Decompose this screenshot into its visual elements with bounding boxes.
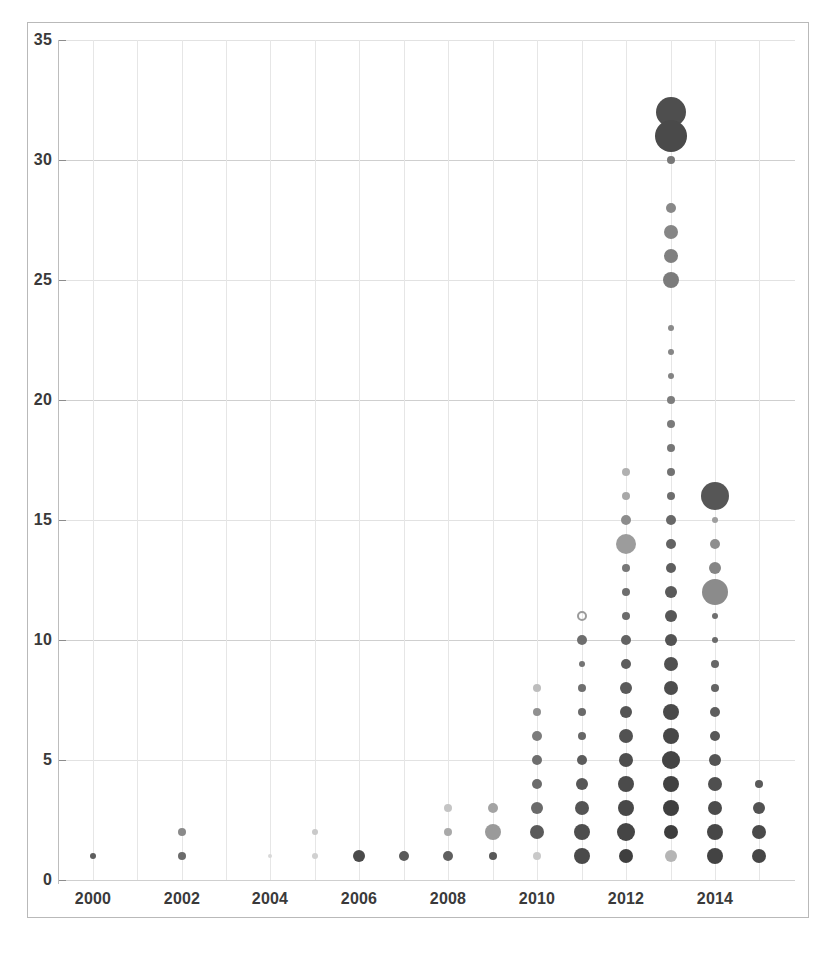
data-point-bubble (668, 325, 674, 331)
data-point-bubble (444, 804, 452, 812)
x-gridline (226, 40, 227, 880)
x-axis-tick-label: 2000 (58, 890, 128, 908)
data-point-bubble (622, 588, 630, 596)
data-point-bubble (667, 156, 675, 164)
data-point-bubble (620, 706, 632, 718)
data-point-bubble (578, 708, 586, 716)
y-tickmark (58, 520, 66, 521)
data-point-bubble (353, 850, 365, 862)
data-point-bubble (665, 634, 677, 646)
data-point-bubble (707, 824, 723, 840)
data-point-bubble (533, 684, 541, 692)
data-point-bubble (579, 661, 585, 667)
plot-area: 0510152025303520002002200420062008201020… (0, 0, 830, 958)
data-point-bubble (488, 803, 498, 813)
data-point-bubble (663, 272, 679, 288)
y-axis-tick-label: 5 (6, 751, 52, 769)
data-point-bubble (530, 825, 544, 839)
data-point-bubble (665, 610, 677, 622)
x-gridline (315, 40, 316, 880)
data-point-bubble (574, 848, 590, 864)
data-point-bubble (663, 728, 679, 744)
data-point-bubble (619, 729, 633, 743)
data-point-bubble (619, 753, 633, 767)
data-point-bubble (574, 824, 590, 840)
data-point-bubble (712, 637, 718, 643)
x-axis-tick-label: 2010 (502, 890, 572, 908)
data-point-bubble (711, 660, 719, 668)
y-axis-tick-label: 0 (6, 871, 52, 889)
data-point-bubble (712, 517, 718, 523)
y-axis-tick-label: 10 (6, 631, 52, 649)
x-axis-tick-label: 2006 (324, 890, 394, 908)
y-axis-tick-label: 35 (6, 31, 52, 49)
data-point-bubble (617, 823, 635, 841)
x-gridline (270, 40, 271, 880)
x-axis-tick-label: 2002 (147, 890, 217, 908)
y-axis-tick-label: 25 (6, 271, 52, 289)
data-point-bubble (622, 468, 630, 476)
data-point-bubble (618, 800, 634, 816)
data-point-bubble (667, 396, 675, 404)
data-point-bubble (666, 563, 676, 573)
data-point-bubble (664, 249, 678, 263)
data-point-bubble (577, 635, 587, 645)
data-point-bubble (664, 681, 678, 695)
data-point-bubble (667, 492, 675, 500)
y-tickmark (58, 400, 66, 401)
data-point-bubble (399, 851, 409, 861)
data-point-bubble (665, 850, 677, 862)
data-point-bubble (663, 776, 679, 792)
data-point-bubble (616, 534, 636, 554)
data-point-bubble (621, 635, 631, 645)
x-axis-tick-label: 2004 (235, 890, 305, 908)
data-point-bubble (620, 682, 632, 694)
x-gridline (404, 40, 405, 880)
data-point-bubble (532, 755, 542, 765)
data-point-bubble (312, 829, 318, 835)
data-point-bubble (577, 755, 587, 765)
data-point-bubble (618, 776, 634, 792)
data-point-bubble (621, 659, 631, 669)
data-point-bubble (710, 731, 720, 741)
x-gridline (582, 40, 583, 880)
x-gridline (537, 40, 538, 880)
y-axis-spine (58, 40, 59, 884)
data-point-bubble (668, 373, 674, 379)
data-point-bubble (701, 482, 729, 510)
y-tickmark (58, 880, 66, 881)
data-point-bubble (178, 852, 186, 860)
data-point-bubble (622, 492, 630, 500)
data-point-bubble (664, 225, 678, 239)
data-point-bubble (663, 704, 679, 720)
data-point-bubble (619, 849, 633, 863)
data-point-bubble (753, 802, 765, 814)
y-tickmark (58, 760, 66, 761)
data-point-bubble (755, 780, 763, 788)
figure-caption (20, 940, 820, 958)
y-axis-tick-label: 30 (6, 151, 52, 169)
x-axis-tick-label: 2014 (680, 890, 750, 908)
y-gridline (66, 40, 795, 41)
data-point-bubble (533, 708, 541, 716)
x-gridline (93, 40, 94, 880)
data-point-bubble (710, 539, 720, 549)
y-tickmark (58, 40, 66, 41)
y-gridline (66, 880, 795, 881)
data-point-bubble (532, 731, 542, 741)
y-tickmark (58, 640, 66, 641)
data-point-bubble (531, 802, 543, 814)
data-point-bubble (578, 732, 586, 740)
data-point-bubble (662, 751, 680, 769)
x-gridline (448, 40, 449, 880)
data-point-bubble (90, 853, 96, 859)
data-point-bubble (666, 203, 676, 213)
data-point-bubble (664, 825, 678, 839)
data-point-bubble (752, 849, 766, 863)
data-point-bubble (178, 828, 186, 836)
data-point-bubble (622, 612, 630, 620)
data-point-bubble (709, 562, 721, 574)
data-point-bubble (444, 828, 452, 836)
data-point-bubble (709, 754, 721, 766)
data-point-bubble (707, 848, 723, 864)
